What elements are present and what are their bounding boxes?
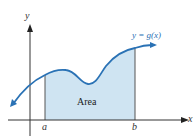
upper-bound-label: b [132, 121, 137, 132]
curve-right-arrow-icon [150, 42, 157, 48]
lower-bound-label: a [42, 121, 47, 132]
x-axis-label: x [188, 113, 192, 124]
y-axis-label: y [25, 10, 29, 21]
area-under-curve-figure: y x y = g(x) Area a b [0, 0, 193, 140]
curve-label: y = g(x) [132, 30, 161, 40]
area-label: Area [77, 96, 96, 107]
y-axis-arrow-icon [27, 24, 33, 32]
diagram-canvas [0, 0, 193, 140]
